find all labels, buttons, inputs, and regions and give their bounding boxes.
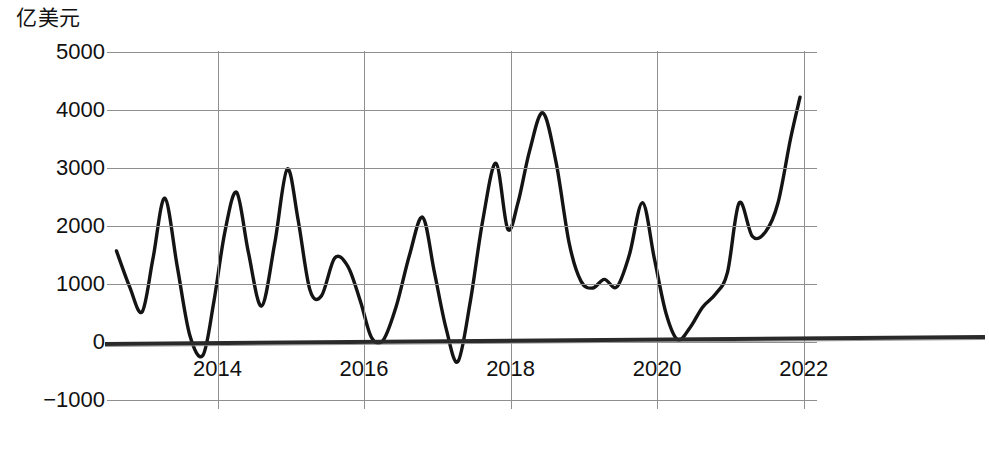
- gridline-horizontal: [107, 226, 817, 227]
- gridline-horizontal: [107, 110, 817, 111]
- gridline-horizontal: [107, 52, 817, 53]
- gridline-horizontal: [107, 284, 817, 285]
- x-axis-tick-label: 2016: [340, 356, 389, 382]
- y-axis-tick-label: 1000: [56, 271, 105, 297]
- x-axis-tick-label: 2022: [779, 356, 828, 382]
- x-axis-tick-label: 2018: [486, 356, 535, 382]
- y-axis-tick-label: −1000: [43, 387, 105, 413]
- x-axis-tick-label: 2020: [633, 356, 682, 382]
- y-axis-tick-label: 3000: [56, 155, 105, 181]
- y-axis-tick-label: 5000: [56, 39, 105, 65]
- gridline-horizontal: [107, 400, 817, 401]
- y-axis-tick-label: 0: [93, 329, 105, 355]
- figure-caption: [0, 456, 875, 462]
- y-axis-tick-label: 4000: [56, 97, 105, 123]
- y-axis-unit-label: 亿美元: [16, 6, 81, 30]
- plot-area: 500040003000200010000−100020142016201820…: [115, 52, 811, 342]
- y-axis-tick-label: 2000: [56, 213, 105, 239]
- gridline-horizontal: [107, 168, 817, 169]
- x-axis-tick-label: 2014: [193, 356, 242, 382]
